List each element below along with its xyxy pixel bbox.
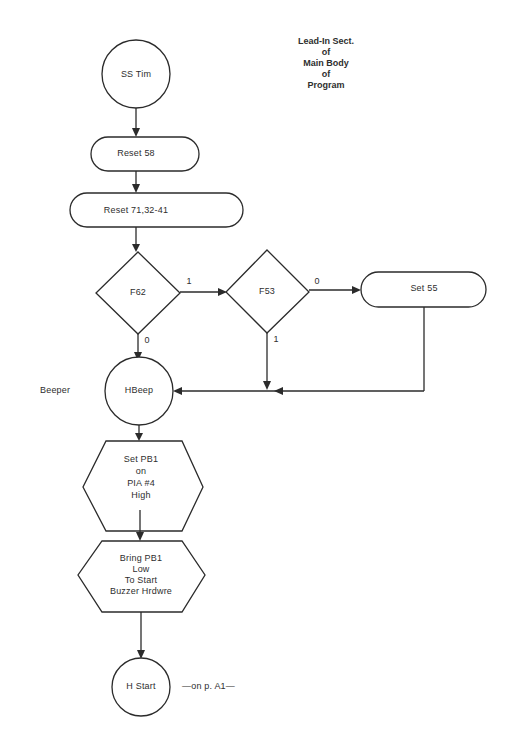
node-label: Reset 71,32-41 [104,205,168,215]
arrowhead-icon [135,433,143,441]
node-label-line: Low [132,564,149,574]
node-label-line: on [136,466,146,476]
node-label: F53 [259,286,275,296]
arrowhead-icon [132,244,140,252]
node-bring-pb1: Bring PB1 Low To Start Buzzer Hrdwre [78,541,205,612]
node-set-pb1: Set PB1 on PIA #4 High [83,441,203,531]
node-side-label: Beeper [40,385,70,395]
edge-reset58-reset71 [132,171,140,193]
arrowhead-icon [132,128,140,137]
arrowhead-icon [173,387,182,395]
node-label: Set 55 [410,283,437,293]
edge-f62-f53: 1 [180,276,227,296]
node-label-line: PIA #4 [127,478,155,488]
arrowhead-icon [132,184,140,193]
flowchart-canvas: Lead-In Sect. of Main Body of Program SS… [0,0,517,747]
arrowhead-icon [263,381,271,390]
arrowhead-icon [136,532,144,541]
edge-label-no: 0 [144,335,149,345]
edge-label-yes: 1 [273,334,278,344]
title-line-5: Program [307,80,344,90]
edge-reset71-f62 [132,227,140,252]
node-label-line: To Start [125,575,158,585]
title-line-1: Lead-In Sect. [298,36,354,46]
title-line-3: Main Body [303,58,349,68]
node-reset-71: Reset 71,32-41 [70,193,243,227]
node-label: SS Tim [121,69,151,79]
node-label-line: Set PB1 [124,454,158,464]
node-f62: F62 [96,252,180,334]
node-f53: F53 [226,250,309,333]
node-label: Reset 58 [117,148,155,158]
node-label-line: Bring PB1 [120,553,162,563]
diagram-title: Lead-In Sect. of Main Body of Program [298,36,354,90]
node-label: H Start [126,681,156,691]
node-set-55: Set 55 [361,272,486,307]
node-hbeep: HBeep Beeper [40,357,173,425]
node-reset-58: Reset 58 [91,137,199,171]
edge-f53-merge: 1 [263,333,279,390]
node-side-label: —on p. A1— [182,681,235,691]
arrowhead-icon [274,387,283,395]
node-label: HBeep [125,385,154,395]
edge-sstim-reset58 [132,108,140,137]
title-line-4: of [322,69,331,79]
node-ss-tim: SS Tim [102,40,170,108]
edge-set55-merge [173,307,424,395]
arrowhead-icon [352,286,361,294]
node-label-line: Buzzer Hrdwre [110,586,172,596]
edge-hbeep-setpb1 [135,425,143,441]
edge-bringpb1-hstart [137,612,145,659]
edge-f53-set55: 0 [309,276,361,294]
node-label: F62 [130,287,146,297]
edge-label-no: 0 [314,276,319,286]
node-label-line: High [131,490,150,500]
edge-label-yes: 1 [186,276,191,286]
node-h-start: H Start —on p. A1— [112,658,235,716]
title-line-2: of [322,47,331,57]
